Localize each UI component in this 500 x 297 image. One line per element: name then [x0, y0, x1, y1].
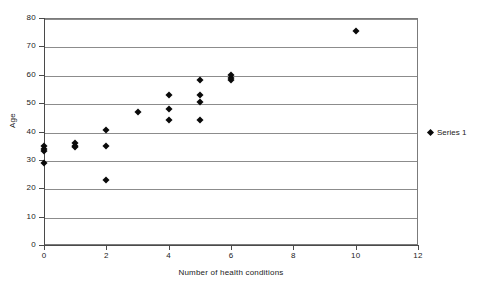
gridline: [45, 19, 417, 20]
x-axis-tick: [106, 245, 107, 250]
x-axis-tick-label: 10: [344, 252, 368, 260]
legend-label: Series 1: [437, 128, 466, 137]
y-axis-tick-label: 80: [6, 14, 36, 22]
y-axis-tick: [39, 103, 44, 104]
gridline: [45, 218, 417, 219]
y-axis-tick: [39, 75, 44, 76]
gridline: [45, 104, 417, 105]
y-axis-tick: [39, 132, 44, 133]
y-axis-tick-label: 0: [6, 241, 36, 249]
x-axis-tick-label: 4: [157, 252, 181, 260]
legend-diamond-icon: [427, 129, 434, 136]
chart-legend: Series 1: [428, 128, 466, 137]
y-axis-tick: [39, 217, 44, 218]
x-axis-tick-label: 6: [219, 252, 243, 260]
x-axis-tick: [356, 245, 357, 250]
y-axis-tick-label: 20: [6, 184, 36, 192]
x-axis-tick: [231, 245, 232, 250]
y-axis-tick-label: 40: [6, 128, 36, 136]
gridline: [45, 133, 417, 134]
x-axis-tick: [418, 245, 419, 250]
x-axis-title: Number of health conditions: [44, 268, 418, 277]
x-axis-tick-label: 0: [32, 252, 56, 260]
gridline: [45, 161, 417, 162]
x-axis-tick: [44, 245, 45, 250]
y-axis-tick: [39, 18, 44, 19]
y-axis-tick: [39, 188, 44, 189]
y-axis-tick-label: 30: [6, 156, 36, 164]
y-axis-line: [44, 18, 45, 245]
y-axis-title: Age: [8, 113, 17, 128]
y-axis-tick-label: 70: [6, 42, 36, 50]
x-axis-tick-label: 8: [281, 252, 305, 260]
y-axis-tick-label: 10: [6, 213, 36, 221]
y-axis-tick-label: 60: [6, 71, 36, 79]
scatter-chart: 01020304050607080 024681012 Number of he…: [0, 0, 500, 297]
gridline: [45, 189, 417, 190]
gridline: [45, 47, 417, 48]
y-axis-tick-label: 50: [6, 99, 36, 107]
x-axis-tick: [293, 245, 294, 250]
plot-area: [44, 18, 418, 245]
y-axis-tick: [39, 46, 44, 47]
x-axis-tick: [169, 245, 170, 250]
x-axis-tick-label: 12: [406, 252, 430, 260]
x-axis-tick-label: 2: [94, 252, 118, 260]
